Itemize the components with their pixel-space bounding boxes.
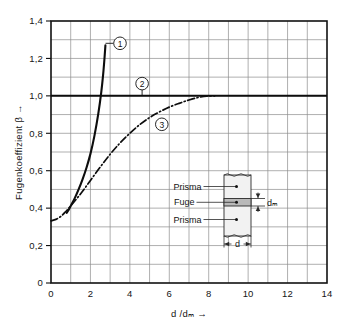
y-tick-label: 1,0 <box>29 90 43 101</box>
callout-label-1: 1 <box>118 39 123 49</box>
inset-label-dm: dₘ <box>267 198 278 208</box>
x-tick-label: 4 <box>127 288 132 299</box>
inset-label-middle: Fuge <box>174 197 195 207</box>
callout-label-3: 3 <box>159 120 164 130</box>
x-tick-label: 8 <box>206 288 211 299</box>
fugenkoeffizient-chart: 0 0,2 0,4 0,6 0,8 1,0 1,2 1,4 0 2 4 6 8 … <box>0 0 344 330</box>
y-tick-label: 0 <box>38 277 43 288</box>
y-tick-label: 1,2 <box>29 53 43 64</box>
x-tick-label: 10 <box>243 288 254 299</box>
x-tick-label: 12 <box>282 288 293 299</box>
inset-dot-middle <box>235 201 238 204</box>
y-tick-label: 0,6 <box>29 165 43 176</box>
x-tick-label: 0 <box>48 288 53 299</box>
x-axis-label: d /dₘ → <box>171 308 207 319</box>
inset-dot-top <box>235 185 238 188</box>
y-tick-label: 0,4 <box>29 202 43 213</box>
y-tick-label: 0,8 <box>29 128 43 139</box>
x-tick-label: 6 <box>167 288 172 299</box>
callout-label-2: 2 <box>140 79 145 89</box>
y-tick-label: 0,2 <box>29 240 43 251</box>
y-axis-tick-labels: 0 0,2 0,4 0,6 0,8 1,0 1,2 1,4 <box>29 15 43 288</box>
x-axis-tick-labels: 0 2 4 6 8 10 12 14 <box>48 288 332 299</box>
inset-label-top: Prisma <box>173 182 201 192</box>
chart-figure: 0 0,2 0,4 0,6 0,8 1,0 1,2 1,4 0 2 4 6 8 … <box>0 0 344 330</box>
callout-series-3: 3 <box>156 118 169 131</box>
inset-label-bottom: Prisma <box>173 215 201 225</box>
y-axis-label: Fugenkoeffizient β → <box>13 104 24 200</box>
x-tick-label: 14 <box>322 288 333 299</box>
y-tick-label: 1,4 <box>29 15 43 26</box>
inset-label-d: d <box>235 239 240 249</box>
x-tick-label: 2 <box>88 288 93 299</box>
inset-dot-bottom <box>235 218 238 221</box>
